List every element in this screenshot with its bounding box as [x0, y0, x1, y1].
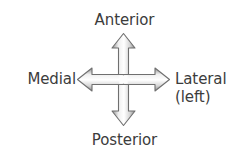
arrow-right-icon — [124, 68, 170, 91]
arrow-up-icon — [112, 34, 135, 80]
direction-label-anterior: Anterior — [0, 11, 243, 29]
arrow-left-icon — [78, 68, 124, 91]
direction-label-posterior: Posterior — [0, 131, 243, 149]
direction-label-lateral-text: Lateral — [175, 70, 227, 88]
direction-label-medial: Medial — [0, 70, 76, 88]
direction-label-lateral: Lateral (left) — [175, 70, 227, 106]
four-way-cross-arrow-icon — [76, 32, 171, 127]
direction-label-lateral-qualifier: (left) — [175, 88, 227, 106]
anatomical-orientation-diagram: Anterior Medial Lateral (left) Posterior — [0, 0, 243, 160]
arrow-down-icon — [112, 80, 135, 126]
